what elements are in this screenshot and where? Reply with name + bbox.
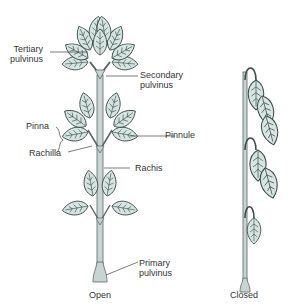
label-rachilla: Rachilla (29, 148, 61, 158)
label-tertiary-pulvinus: Tertiary pulvinus (10, 44, 43, 64)
closed-leaf (240, 68, 281, 292)
top-pinnae-leaves (62, 15, 139, 71)
label-pinnule: Pinnule (165, 130, 195, 140)
closed-leaflets (247, 80, 281, 244)
open-leaf (50, 15, 175, 282)
caption-open: Open (89, 290, 111, 300)
rachis-stem (97, 75, 103, 270)
primary-pulvinus (93, 262, 107, 282)
label-secondary-pulvinus: Secondary pulvinus (140, 70, 183, 90)
secondary-pulvinus-shape (95, 70, 105, 79)
label-pinna: Pinna (26, 121, 49, 131)
caption-closed: Closed (230, 290, 258, 300)
label-primary-pulvinus: Primary pulvinus (139, 258, 172, 278)
label-rachis: Rachis (135, 163, 163, 173)
